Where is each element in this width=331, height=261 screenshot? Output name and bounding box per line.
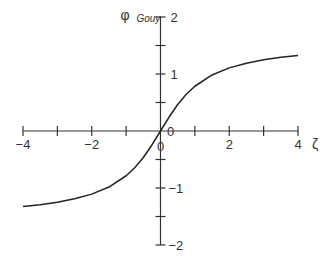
x-axis-title: ζ xyxy=(312,136,318,152)
y-tick-label: 2 xyxy=(171,10,178,25)
y-axis-title-subscript: Gouy xyxy=(136,13,161,24)
y-tick-label: −1 xyxy=(169,181,184,196)
x-tick-label: 4 xyxy=(294,137,301,152)
gouy-phase-chart: −4−2024 210−1−2 ζ φ Gouy xyxy=(0,0,331,261)
y-tick-label: −2 xyxy=(169,238,184,253)
x-tick-label: 2 xyxy=(226,137,233,152)
y-axis-title-symbol: φ xyxy=(121,7,130,23)
y-axis-title: φ Gouy xyxy=(121,7,162,24)
x-tick-label: −4 xyxy=(16,137,31,152)
x-tick-label: −2 xyxy=(84,137,99,152)
y-tick-label: 1 xyxy=(171,67,178,82)
x-tick-label: 0 xyxy=(167,124,174,139)
y-tick-label: 0 xyxy=(157,139,164,154)
